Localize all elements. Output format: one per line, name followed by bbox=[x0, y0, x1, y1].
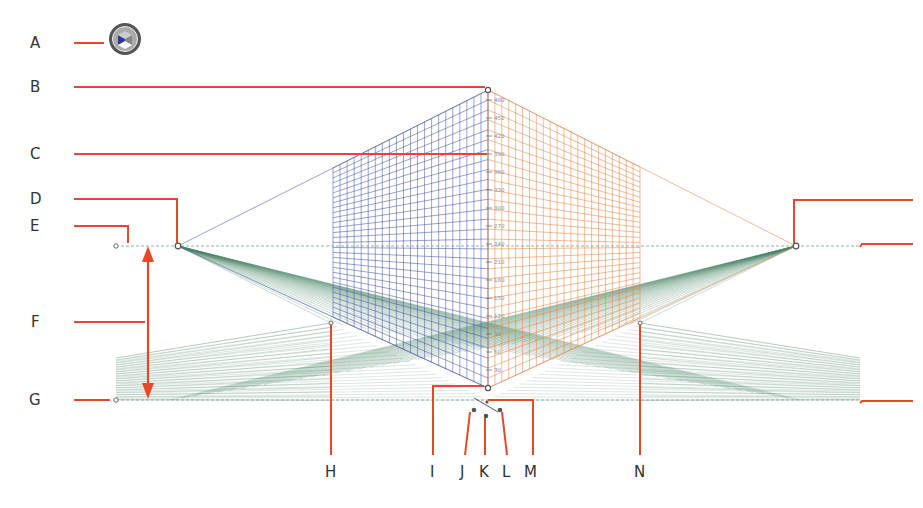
horizontal-plane-grid-control bbox=[484, 414, 489, 419]
svg-text:210: 210 bbox=[494, 259, 505, 265]
callout-label-a: A bbox=[30, 34, 40, 52]
svg-text:300: 300 bbox=[494, 205, 505, 211]
grid-handles[interactable] bbox=[114, 87, 799, 418]
svg-text:360: 360 bbox=[494, 169, 505, 175]
horizon-line-handle-left bbox=[114, 244, 118, 248]
left-plane-grid-control bbox=[472, 408, 477, 413]
left-vanishing-point-handle bbox=[175, 243, 181, 249]
grid-cell-size-control bbox=[485, 400, 488, 403]
perspective-grid-diagram: 4804504203903603303002702402101801501209… bbox=[0, 0, 923, 508]
callout-label-m: M bbox=[524, 463, 537, 481]
svg-text:450: 450 bbox=[494, 115, 505, 121]
right-grid-extent-handle bbox=[638, 321, 642, 325]
svg-text:90: 90 bbox=[494, 331, 501, 337]
callout-label-b: B bbox=[30, 78, 40, 96]
plane-switching-widget-icon[interactable] bbox=[106, 19, 144, 57]
origin-handle bbox=[485, 385, 490, 390]
svg-text:60: 60 bbox=[494, 349, 501, 355]
callout-label-h: H bbox=[325, 463, 336, 481]
callout-label-f: F bbox=[31, 313, 40, 331]
svg-text:330: 330 bbox=[494, 187, 505, 193]
callout-label-l: L bbox=[502, 463, 510, 481]
vertical-grid-extent-handle bbox=[485, 87, 490, 92]
callout-label-j: J bbox=[460, 463, 464, 481]
svg-text:150: 150 bbox=[494, 295, 505, 301]
svg-text:270: 270 bbox=[494, 223, 505, 229]
callout-label-n: N bbox=[634, 463, 645, 481]
right-plane-grid-control bbox=[498, 408, 503, 413]
svg-text:180: 180 bbox=[494, 277, 505, 283]
left-grid-extent-handle bbox=[329, 321, 333, 325]
svg-text:30: 30 bbox=[494, 367, 501, 373]
svg-text:480: 480 bbox=[494, 97, 505, 103]
callout-label-g: G bbox=[29, 391, 41, 409]
svg-text:390: 390 bbox=[494, 151, 505, 157]
diagram-canvas: 4804504203903603303002702402101801501209… bbox=[0, 0, 923, 508]
svg-text:240: 240 bbox=[494, 241, 505, 247]
callout-label-e: E bbox=[30, 217, 39, 235]
svg-text:120: 120 bbox=[494, 313, 505, 319]
ground-level-handle-left bbox=[114, 398, 118, 402]
svg-text:420: 420 bbox=[494, 133, 505, 139]
callout-label-k: K bbox=[479, 463, 489, 481]
callout-label-i: I bbox=[430, 463, 434, 481]
callout-label-d: D bbox=[30, 190, 42, 208]
right-vanishing-point-handle bbox=[793, 243, 799, 249]
callout-label-c: C bbox=[30, 145, 40, 163]
